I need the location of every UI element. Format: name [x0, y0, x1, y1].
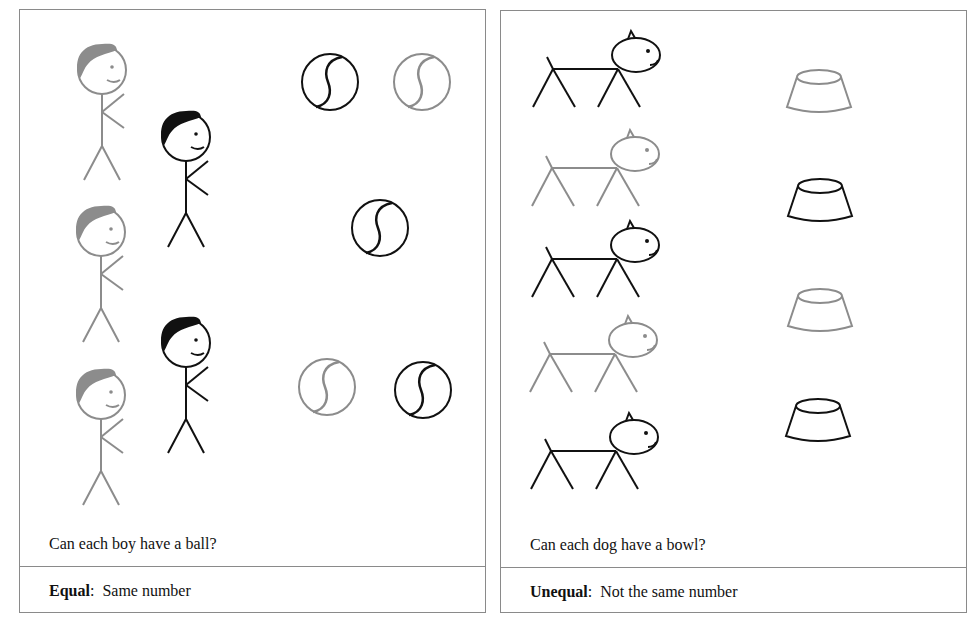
equal-panel: Can each boy have a ball? Equal: Same nu…	[19, 9, 486, 613]
caption-text: Same number	[102, 582, 190, 599]
caption-separator: :	[588, 583, 592, 600]
bowl-icon	[786, 399, 850, 441]
dog-figure	[533, 31, 660, 107]
bowl-icon	[787, 70, 851, 112]
panel-question: Can each dog have a bowl?	[530, 536, 705, 554]
dogs-and-bowls-illustration	[501, 11, 968, 531]
boys-and-balls-illustration	[20, 10, 487, 530]
bowl-icon	[788, 289, 852, 331]
ball-icon	[352, 200, 408, 256]
dog-figure	[532, 221, 659, 297]
ball-icon	[299, 359, 355, 415]
dog-figure	[530, 316, 657, 392]
panel-caption: Unequal: Not the same number	[530, 583, 738, 601]
panel-caption: Equal: Same number	[49, 582, 191, 600]
dog-figure	[531, 413, 658, 489]
panel-question: Can each boy have a ball?	[49, 535, 216, 553]
caption-term: Equal	[49, 582, 90, 599]
dog-figure	[532, 130, 659, 206]
boy-figure	[76, 206, 125, 342]
boy-figure	[161, 317, 210, 453]
ball-icon	[394, 54, 450, 110]
divider	[501, 567, 966, 568]
divider	[20, 566, 485, 567]
boy-figure	[161, 111, 210, 247]
ball-icon	[302, 54, 358, 110]
boy-figure	[76, 369, 125, 505]
caption-separator: :	[90, 582, 94, 599]
boy-figure	[77, 44, 126, 180]
caption-term: Unequal	[530, 583, 588, 600]
bowl-icon	[788, 179, 852, 221]
ball-icon	[395, 362, 451, 418]
caption-text: Not the same number	[600, 583, 737, 600]
unequal-panel: Can each dog have a bowl? Unequal: Not t…	[500, 10, 967, 613]
